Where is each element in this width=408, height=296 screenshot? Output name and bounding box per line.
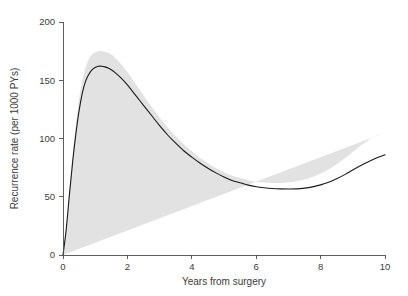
x-tick-label: 6 [254,261,259,272]
y-axis-ticks: 050100150200 [39,16,63,260]
y-tick-label: 0 [50,249,55,260]
x-tick-label: 2 [125,261,130,272]
x-axis-title: Years from surgery [182,276,266,287]
y-tick-label: 150 [39,75,55,86]
x-tick-label: 8 [318,261,323,272]
x-axis: 0246810 [60,255,390,272]
y-tick-label: 200 [39,16,55,27]
recurrence-rate-plot: 050100150200 0246810 Years from surgery … [0,0,408,296]
y-tick-label: 50 [44,191,55,202]
x-tick-label: 10 [380,261,391,272]
x-tick-label: 0 [60,261,65,272]
y-axis-title: Recurrence rate (per 1000 PYs) [9,68,20,210]
x-axis-ticks: 0246810 [60,255,390,272]
confidence-interval-band [63,51,385,255]
ci-band-group [63,51,385,255]
x-tick-label: 4 [189,261,194,272]
chart-figure: 050100150200 0246810 Years from surgery … [0,0,408,296]
y-tick-label: 100 [39,133,55,144]
y-axis: 050100150200 [39,16,63,260]
